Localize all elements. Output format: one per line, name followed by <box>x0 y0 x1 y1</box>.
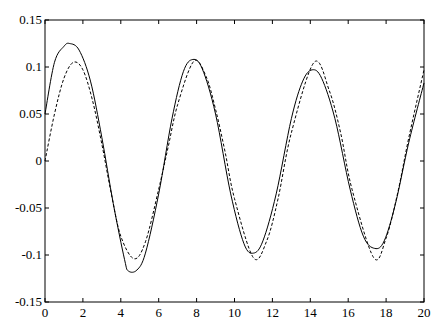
y-tick-label: 0 <box>36 153 43 168</box>
x-tick-label: 10 <box>228 305 241 320</box>
x-tick-label: 0 <box>42 305 49 320</box>
x-tick-label: 18 <box>380 305 393 320</box>
y-tick-label: -0.15 <box>15 294 42 309</box>
x-tick-label: 12 <box>266 305 279 320</box>
y-tick-label: 0.15 <box>19 12 42 27</box>
x-tick-label: 6 <box>155 305 162 320</box>
x-tick-label: 16 <box>342 305 356 320</box>
x-tick-label: 20 <box>418 305 431 320</box>
line-chart: 02468101214161820 -0.15-0.1-0.0500.050.1… <box>0 0 446 332</box>
y-tick-label: 0.05 <box>19 106 42 121</box>
y-tick-label: -0.05 <box>15 200 42 215</box>
x-tick-label: 4 <box>118 305 125 320</box>
x-tick-label: 8 <box>193 305 200 320</box>
x-tick-label: 2 <box>80 305 87 320</box>
x-tick-label: 14 <box>304 305 318 320</box>
plot-area <box>45 20 424 302</box>
y-tick-label: -0.1 <box>21 247 42 262</box>
y-tick-label: 0.1 <box>26 59 42 74</box>
